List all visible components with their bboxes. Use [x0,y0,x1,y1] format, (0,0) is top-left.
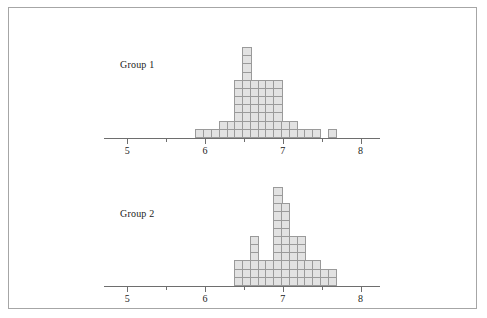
histogram-unit-block [328,129,337,138]
histogram-stack [329,268,338,286]
axis-line-group-1 [104,138,380,139]
axis-tick-major [205,286,206,292]
axis-tick-minor [322,286,323,290]
axis-tick-label: 8 [358,145,363,156]
axis-tick-minor [244,138,245,142]
axis-tick-major [127,286,128,292]
axis-tick-major [283,286,284,292]
axis-tick-label: 7 [280,293,285,304]
axis-tick-label: 8 [358,293,363,304]
axis-tick-major [127,138,128,144]
axis-tick-major [205,138,206,144]
axis-tick-minor [244,286,245,290]
axis-tick-major [283,138,284,144]
axis-tick-minor [166,286,167,290]
figure-canvas: Group 1 5678 Group 2 5678 [0,0,487,318]
plot-area-group-2 [104,158,380,286]
panel-group-2: Group 2 5678 [0,158,487,318]
histogram-stack [329,129,338,138]
axis-tick-major [361,286,362,292]
histogram-unit-block [328,277,337,286]
axis-tick-label: 6 [203,293,208,304]
axis-tick-minor [166,138,167,142]
axis-tick-major [361,138,362,144]
axis-tick-minor [322,138,323,142]
axis-tick-label: 6 [203,145,208,156]
axis-tick-label: 5 [125,293,130,304]
axis-tick-label: 7 [280,145,285,156]
axis-line-group-2 [104,286,380,287]
histogram-unit-block [312,129,321,138]
panel-group-1: Group 1 5678 [0,0,487,160]
histogram-stack [313,129,322,138]
plot-area-group-1 [104,0,380,138]
axis-tick-label: 5 [125,145,130,156]
